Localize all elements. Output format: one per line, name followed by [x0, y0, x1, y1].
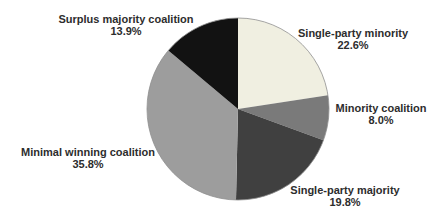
slice-label-minimal-winning-coalition: Minimal winning coalition 35.8%	[21, 146, 155, 170]
slice-name: Minority coalition	[335, 102, 426, 114]
slice-percent: 22.6%	[298, 39, 408, 51]
slice-name: Single-party majority	[290, 184, 399, 196]
slice-label-single-party-minority: Single-party minority 22.6%	[298, 27, 408, 51]
pie-chart-figure: Single-party minority 22.6% Minority coa…	[0, 0, 446, 218]
slice-name: Single-party minority	[298, 27, 408, 39]
slice-name: Minimal winning coalition	[21, 146, 155, 158]
slice-percent: 8.0%	[335, 114, 426, 126]
slice-label-surplus-majority-coalition: Surplus majority coalition 13.9%	[58, 13, 193, 37]
slice-name: Surplus majority coalition	[58, 13, 193, 25]
slice-percent: 35.8%	[21, 158, 155, 170]
slice-percent: 19.8%	[290, 196, 399, 208]
slice-percent: 13.9%	[58, 25, 193, 37]
slice-label-single-party-majority: Single-party majority 19.8%	[290, 184, 399, 208]
slice-label-minority-coalition: Minority coalition 8.0%	[335, 102, 426, 126]
